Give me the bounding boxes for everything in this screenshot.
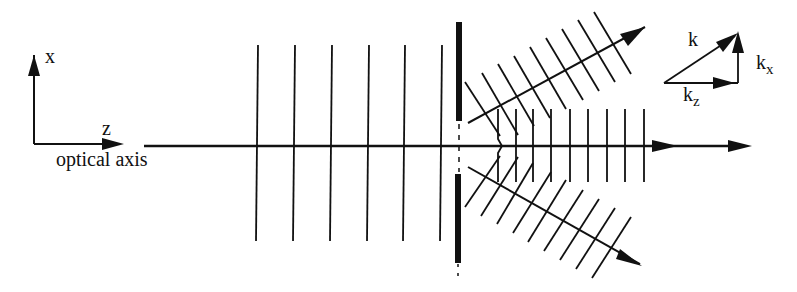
kx-label: kx — [756, 51, 774, 77]
plus-one-order-arrowhead-icon — [620, 27, 645, 46]
diffraction-diagram: x z optical axis — [0, 0, 797, 292]
zero-order-arrowhead-icon — [652, 140, 678, 152]
plus-one-order-ray — [468, 27, 645, 123]
kz-label: kz — [683, 83, 700, 109]
optical-axis-caption: optical axis — [56, 148, 148, 171]
slit-screen — [455, 22, 462, 280]
incident-wavefronts — [256, 45, 442, 241]
z-axis-label: z — [102, 117, 111, 139]
minus-one-order-arrowhead-icon — [616, 249, 642, 266]
optical-axis-arrowhead-icon — [728, 140, 752, 152]
screen-upper-half — [456, 22, 462, 121]
x-axis-label: x — [45, 45, 55, 67]
wave-vector-diagram — [664, 31, 744, 89]
screen-lower-half — [455, 174, 461, 263]
minus-one-order-ray — [468, 167, 640, 264]
k-label: k — [688, 28, 698, 50]
x-axis-arrowhead-icon — [28, 55, 40, 76]
kx-vector-arrowhead-icon — [732, 31, 744, 53]
kz-vector-arrowhead-icon — [713, 77, 735, 89]
